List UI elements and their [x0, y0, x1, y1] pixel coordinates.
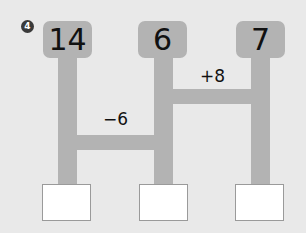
middle-stem [154, 55, 173, 185]
amida-puzzle: 4 14 6 7 −6 +8 [0, 0, 306, 233]
right-stem [251, 55, 270, 185]
operation-label-minus: −6 [103, 111, 128, 128]
start-number-3: 7 [236, 21, 285, 58]
left-stem [58, 55, 77, 185]
crossbar-minus-6 [77, 135, 154, 150]
start-number-1: 14 [43, 21, 92, 58]
start-number-2: 6 [138, 21, 187, 58]
answer-box-3[interactable] [235, 184, 284, 221]
problem-number-badge: 4 [21, 20, 34, 33]
answer-box-2[interactable] [139, 184, 188, 221]
answer-box-1[interactable] [42, 184, 91, 221]
crossbar-plus-8 [173, 89, 251, 104]
operation-label-plus: +8 [200, 68, 225, 85]
